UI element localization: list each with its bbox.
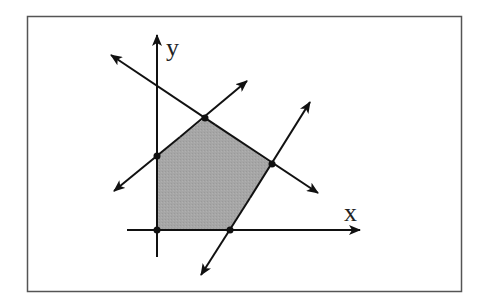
vertex-x-intercept bbox=[227, 227, 234, 234]
vertex-y-intercept bbox=[154, 153, 161, 160]
feasible-region-diagram: y x bbox=[0, 0, 485, 298]
vertex-origin bbox=[154, 227, 161, 234]
y-axis-label: y bbox=[166, 33, 179, 62]
vertex-top bbox=[202, 115, 209, 122]
vertex-right bbox=[269, 161, 276, 168]
x-axis-label: x bbox=[344, 198, 357, 227]
